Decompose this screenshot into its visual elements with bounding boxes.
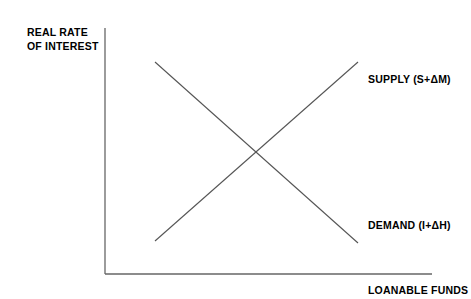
supply-curve-label: SUPPLY (S+ΔM) (368, 72, 451, 86)
loanable-funds-diagram: REAL RATE OF INTEREST SUPPLY (S+ΔM) DEMA… (0, 0, 471, 299)
demand-curve-label: DEMAND (I+ΔH) (368, 218, 451, 232)
y-axis-title-line-2: OF INTEREST (27, 39, 99, 53)
x-axis-title: LOANABLE FUNDS (368, 283, 468, 297)
y-axis-title: REAL RATE OF INTEREST (27, 25, 99, 53)
y-axis-title-line-1: REAL RATE (27, 26, 88, 38)
